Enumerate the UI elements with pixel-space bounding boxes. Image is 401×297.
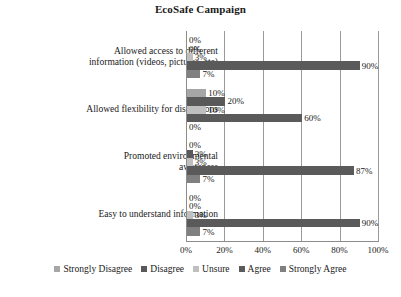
legend-item[interactable]: Strongly Agree xyxy=(280,264,347,274)
chart-container: EcoSafe Campaign Allowed access to diffe… xyxy=(0,0,401,297)
bar-row: 0% xyxy=(187,45,379,53)
plot-area: 0%0%3%90%7%10%20%10%60%0%0%3%3%87%7%0%0%… xyxy=(186,31,379,241)
bar-row: 0% xyxy=(187,202,379,210)
bar-value-label: 7% xyxy=(202,70,214,79)
bar-row: 3% xyxy=(187,150,379,158)
bar-group: 0%3%3%87%7% xyxy=(187,136,379,189)
bar-group: 0%0%3%90%7% xyxy=(187,31,379,84)
bar-row: 87% xyxy=(187,166,379,174)
legend-swatch-icon xyxy=(280,266,286,272)
legend-swatch-icon xyxy=(193,266,199,272)
legend-label: Agree xyxy=(248,264,271,274)
bar-row: 90% xyxy=(187,219,379,227)
bar[interactable] xyxy=(187,150,193,158)
bar-row: 7% xyxy=(187,227,379,235)
bar-row: 0% xyxy=(187,122,379,130)
bar-row: 3% xyxy=(187,158,379,166)
bar-row: 90% xyxy=(187,61,379,69)
bar-value-label: 10% xyxy=(208,88,225,97)
bar-row: 7% xyxy=(187,175,379,183)
bar[interactable] xyxy=(187,53,193,61)
bar[interactable] xyxy=(187,227,200,235)
bar-value-label: 7% xyxy=(202,227,214,236)
bar-value-label: 3% xyxy=(195,158,207,167)
x-tick-label: 100% xyxy=(358,245,398,255)
x-tick-label: 40% xyxy=(243,245,283,255)
legend-item[interactable]: Strongly Disagree xyxy=(54,264,132,274)
bar-value-label: 20% xyxy=(227,97,244,106)
x-tick-label: 20% xyxy=(204,245,244,255)
legend-item[interactable]: Unsure xyxy=(193,264,229,274)
bar[interactable] xyxy=(187,211,193,219)
bar-row: 7% xyxy=(187,70,379,78)
legend-item[interactable]: Agree xyxy=(239,264,271,274)
x-tick-label: 0% xyxy=(166,245,206,255)
bar[interactable] xyxy=(187,158,193,166)
bar-value-label: 0% xyxy=(189,122,201,131)
legend-swatch-icon xyxy=(239,266,245,272)
bar-value-label: 10% xyxy=(208,105,225,114)
x-axis-line xyxy=(186,241,379,242)
legend-label: Strongly Agree xyxy=(289,264,347,274)
bar[interactable] xyxy=(187,106,206,114)
x-tick-label: 60% xyxy=(281,245,321,255)
legend-label: Strongly Disagree xyxy=(63,264,132,274)
legend-label: Unsure xyxy=(202,264,229,274)
bar-value-label: 3% xyxy=(195,53,207,62)
bar[interactable] xyxy=(187,70,200,78)
bar-row: 3% xyxy=(187,211,379,219)
bar[interactable] xyxy=(187,89,206,97)
bar-row: 3% xyxy=(187,53,379,61)
bar-row: 10% xyxy=(187,106,379,114)
bar-value-label: 60% xyxy=(304,114,321,123)
legend-swatch-icon xyxy=(141,266,147,272)
bar-group: 0%0%3%90%7% xyxy=(187,189,379,242)
bar-row: 0% xyxy=(187,36,379,44)
bar-value-label: 90% xyxy=(362,61,379,70)
bar-value-label: 3% xyxy=(195,210,207,219)
bar-value-label: 7% xyxy=(202,175,214,184)
bar-value-label: 90% xyxy=(362,219,379,228)
bar-row: 60% xyxy=(187,114,379,122)
chart-legend: Strongly DisagreeDisagreeUnsureAgreeStro… xyxy=(0,264,401,274)
bar-row: 0% xyxy=(187,141,379,149)
bar-value-label: 87% xyxy=(356,166,373,175)
bar-row: 0% xyxy=(187,194,379,202)
legend-label: Disagree xyxy=(150,264,184,274)
bar-group: 10%20%10%60%0% xyxy=(187,84,379,137)
chart-title: EcoSafe Campaign xyxy=(0,3,401,15)
bar[interactable] xyxy=(187,175,200,183)
x-tick-label: 80% xyxy=(320,245,360,255)
legend-item[interactable]: Disagree xyxy=(141,264,184,274)
bar[interactable] xyxy=(187,114,302,122)
legend-swatch-icon xyxy=(54,266,60,272)
bar-row: 10% xyxy=(187,89,379,97)
